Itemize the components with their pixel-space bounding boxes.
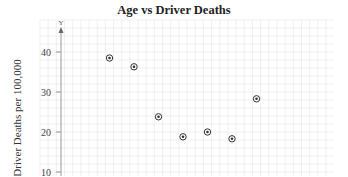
- grid-lines: [40, 20, 334, 176]
- y-tick-label: 30: [41, 87, 51, 98]
- data-point-marker: [229, 136, 235, 142]
- y-tick-label: 10: [41, 167, 51, 177]
- data-point-marker: [131, 64, 137, 70]
- data-point-marker: [106, 55, 112, 61]
- y-axis-symbol: Y: [58, 19, 63, 27]
- y-axis: Y: [58, 19, 63, 176]
- data-point-marker: [180, 134, 186, 140]
- data-point-marker: [204, 129, 210, 135]
- y-tick-label: 40: [41, 47, 51, 58]
- data-point-marker: [155, 114, 161, 120]
- y-tick-label: 20: [41, 127, 51, 138]
- scatter-plot: Y 10203040: [0, 0, 348, 176]
- data-point-marker: [253, 96, 259, 102]
- y-axis-label: Driver Deaths per 100,000: [11, 43, 23, 176]
- y-ticks: 10203040: [41, 47, 61, 177]
